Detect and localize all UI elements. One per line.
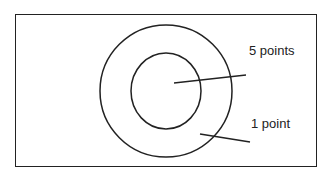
inner-ring: [131, 53, 201, 129]
leader-line-1-point: [200, 134, 250, 142]
label-1-point: 1 point: [251, 117, 290, 130]
leader-line-5-points: [174, 75, 246, 83]
outer-ring: [100, 25, 232, 157]
target-diagram: [0, 0, 332, 178]
label-5-points: 5 points: [249, 44, 295, 57]
